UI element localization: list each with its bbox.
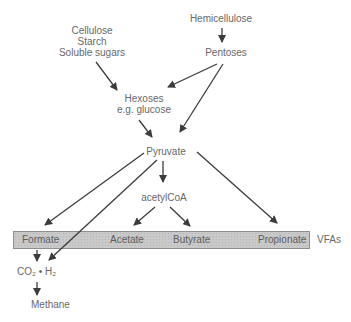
arrow-pentoses-to-hexoses (168, 64, 217, 87)
node-acetate: Acetate (110, 234, 144, 245)
node-acetylcoa: acetylCoA (141, 192, 187, 203)
node-methane: Methane (31, 299, 70, 310)
arrow-cellulose-group-to-hexoses (96, 62, 117, 90)
node-pyruvate: Pyruvate (146, 146, 185, 157)
node-butyrate: Butyrate (173, 234, 210, 245)
fermentation-pathway-diagram: Cellulose Starch Soluble sugars Hemicell… (0, 0, 351, 322)
vfas-label: VFAs (317, 234, 341, 245)
arrow-pyruvate-to-propionate (197, 152, 277, 223)
node-soluble-sugars: Soluble sugars (59, 47, 125, 58)
node-starch: Starch (59, 36, 125, 47)
node-hemicellulose: Hemicellulose (190, 13, 252, 24)
node-co2-h2: CO₂ • H₂ (17, 266, 56, 277)
node-pentoses: Pentoses (205, 47, 247, 58)
arrow-pentoses-to-pyruvate (180, 64, 223, 132)
node-cellulose-group: Cellulose Starch Soluble sugars (59, 25, 125, 58)
node-cellulose: Cellulose (59, 25, 125, 36)
arrow-acetylcoa-to-butyrate (170, 207, 190, 226)
node-propionate: Propionate (258, 234, 306, 245)
node-hexoses: Hexoses e.g. glucose (117, 93, 171, 115)
arrow-acetylcoa-to-acetate (134, 207, 155, 225)
arrow-pyruvate-to-formate (45, 153, 144, 225)
node-hexoses-example: e.g. glucose (117, 104, 171, 115)
node-formate: Formate (22, 234, 59, 245)
arrow-hexoses-to-pyruvate (139, 120, 152, 137)
node-hexoses-title: Hexoses (117, 93, 171, 104)
